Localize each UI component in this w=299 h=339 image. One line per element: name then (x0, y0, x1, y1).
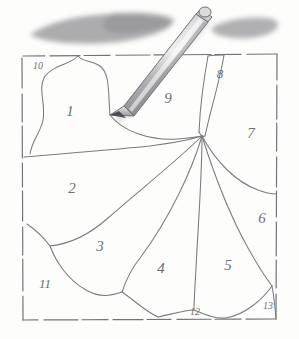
pencil-eraser (199, 7, 211, 17)
boundary-region-11-3 (50, 246, 122, 296)
border-left (22, 56, 23, 320)
region-label-4: 4 (157, 261, 165, 276)
region-label-1: 1 (66, 104, 74, 119)
region-label-12: 12 (190, 307, 200, 317)
region-label-5: 5 (224, 258, 232, 273)
region-label-10: 10 (33, 61, 43, 71)
boundary-fan-rib-6-7 (202, 136, 276, 194)
border-right (276, 54, 277, 319)
left-smudge-tail (103, 12, 174, 33)
region-label-13: 13 (263, 301, 273, 311)
graphite-smudges (30, 12, 278, 44)
boundary-bottom-scallop-mid (158, 310, 194, 317)
sketch-canvas: 1 2 3 4 5 6 7 8 9 10 11 12 13 (0, 0, 299, 339)
region-label-11: 11 (39, 277, 51, 290)
boundary-region-8-left (199, 56, 208, 132)
right-graphite-smudge (212, 17, 278, 38)
region-label-3: 3 (96, 239, 104, 254)
boundary-region-8-bottom (199, 132, 205, 136)
boundary-region-7-8-top (208, 55, 224, 56)
region-label-9: 9 (164, 91, 172, 106)
border-bottom (23, 319, 276, 320)
boundary-region-2-11 (27, 224, 50, 246)
border-top (23, 54, 277, 56)
boundary-fan-rib-4-5 (194, 136, 202, 310)
region-label-8: 8 (217, 67, 224, 80)
region-label-7: 7 (247, 126, 255, 141)
region-label-2: 2 (68, 181, 76, 196)
region-label-6: 6 (258, 211, 266, 226)
boundary-region-1-top (78, 56, 110, 115)
boundary-bottom-scallop-left (122, 292, 158, 317)
